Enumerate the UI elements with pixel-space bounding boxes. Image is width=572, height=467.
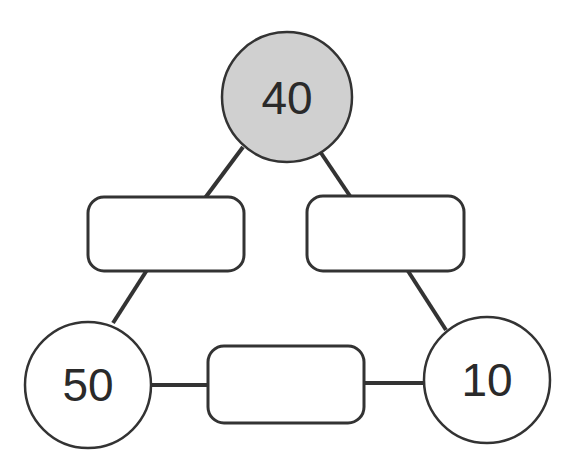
box-bottom-rect[interactable] [208, 346, 364, 423]
line-top-to-right-box [317, 147, 350, 196]
line-top-to-left-box [205, 147, 243, 198]
box-left-rect[interactable] [88, 197, 244, 271]
box-right-rect[interactable] [307, 196, 464, 271]
box-right[interactable] [307, 196, 464, 271]
node-bottom-left: 50 [25, 322, 151, 448]
number-triangle-diagram: 40 50 10 [0, 0, 572, 467]
line-right-box-to-bottom-right [408, 271, 446, 330]
node-top-value: 40 [261, 72, 312, 124]
box-bottom[interactable] [208, 346, 364, 423]
line-left-box-to-bottom-left [113, 270, 147, 323]
node-top: 40 [222, 32, 352, 162]
node-bottom-right: 10 [424, 317, 550, 443]
node-bottom-left-value: 50 [62, 359, 113, 411]
node-bottom-right-value: 10 [461, 354, 512, 406]
box-left[interactable] [88, 197, 244, 271]
